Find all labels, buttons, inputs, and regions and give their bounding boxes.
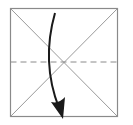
origami-fold-diagram (0, 0, 133, 125)
fold-arrow-head-icon (51, 97, 65, 119)
fold-arrow-curve (49, 13, 59, 108)
